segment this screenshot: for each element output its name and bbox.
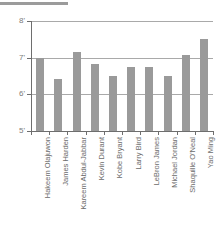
y-axis-tick-label: 7': [3, 54, 25, 62]
bar: [73, 52, 81, 131]
x-axis-tick: [140, 131, 141, 135]
bar: [164, 76, 172, 131]
category-label: Hakeem Olajuwon: [44, 137, 52, 198]
category-label: Kobe Bryant: [116, 137, 124, 178]
y-axis-tick-label: 8': [3, 17, 25, 25]
x-axis-tick: [213, 131, 214, 135]
category-label: LeBron James: [153, 137, 161, 185]
x-axis-tick: [49, 131, 50, 135]
bar: [91, 64, 99, 131]
bar: [109, 76, 117, 131]
category-label: Yao Ming: [207, 137, 215, 168]
x-axis-tick: [195, 131, 196, 135]
category-label: James Harden: [62, 137, 70, 186]
y-axis-tick-label: 6': [3, 90, 25, 98]
x-axis-tick: [177, 131, 178, 135]
bar: [145, 67, 153, 131]
category-label: Kareem Abdul-Jabbar: [80, 137, 88, 210]
x-axis-tick: [86, 131, 87, 135]
category-label: Kevin Durant: [98, 137, 106, 180]
bar: [36, 58, 44, 131]
x-axis-tick: [104, 131, 105, 135]
category-label: Larry Bird: [135, 137, 143, 170]
x-axis-tick: [158, 131, 159, 135]
bar-chart: 8'7'6'5' Hakeem OlajuwonJames HardenKare…: [0, 0, 222, 240]
x-axis-tick: [122, 131, 123, 135]
bars-layer: [31, 21, 213, 131]
bar: [54, 79, 62, 131]
bar: [182, 55, 190, 131]
x-axis-tick: [31, 131, 32, 135]
bar: [200, 39, 208, 131]
category-label: Michael Jordan: [171, 137, 179, 188]
y-axis-tick-label: 5': [3, 127, 25, 135]
category-label: Shaquille O'Neal: [189, 137, 197, 193]
bar: [127, 67, 135, 131]
x-axis-tick: [67, 131, 68, 135]
